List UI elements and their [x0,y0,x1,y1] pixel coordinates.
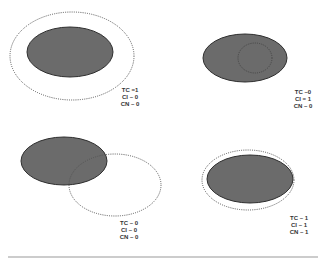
label-bottom-left: TC – 0 CI – 0 CN – 0 [114,220,144,241]
filled-ellipse [203,34,287,82]
label-ci: CI – 0 [114,227,144,234]
label-cn: CN – 1 [284,229,314,236]
filled-ellipse [21,137,107,185]
panel-bottom-left [21,137,161,216]
diagram-canvas [0,0,326,261]
label-top-right: TC –0 CI = 1 CN – 0 [288,89,318,110]
label-tc: TC =1 [115,87,145,94]
panel-top-right [203,34,287,82]
label-cn: CN – 0 [115,101,145,108]
label-tc: TC –0 [288,89,318,96]
label-ci: CI = 1 [288,96,318,103]
label-cn: CN – 0 [288,103,318,110]
label-top-left: TC =1 CI – 0 CN – 0 [115,87,145,108]
panel-bottom-right [202,150,294,210]
label-bottom-right: TC – 1 CI – 1 CN – 1 [284,215,314,236]
filled-ellipse [27,27,113,77]
filled-ellipse [207,155,293,203]
label-tc: TC – 1 [284,215,314,222]
label-tc: TC – 0 [114,220,144,227]
label-ci: CI – 0 [115,94,145,101]
label-cn: CN – 0 [114,234,144,241]
label-ci: CI – 1 [284,222,314,229]
